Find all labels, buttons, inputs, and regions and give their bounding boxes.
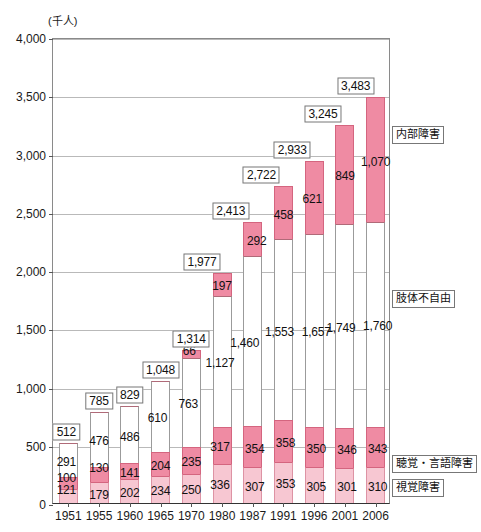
y-axis-tick-label: 1,500 [16,323,46,337]
segment-value-label: 130 [89,461,108,475]
segment-value-label: 336 [210,478,229,492]
segment-value-label: 1,760 [363,319,392,333]
disability-population-stacked-bar-chart: (千人) 05001,0001,5002,0002,5003,0003,5004… [0,0,481,532]
segment-value-label: 458 [274,208,293,222]
x-axis-label-1965: 1965 [147,509,174,523]
segment-value-label: 621 [302,192,321,206]
x-axis-tick [283,503,284,507]
legend-item-choukaku: 聴覚・言語障害 [392,455,477,473]
x-axis-label-2006: 2006 [362,509,389,523]
legend-item-shitai: 肢体不自由 [392,290,455,308]
bar-total-label: 2,722 [243,166,280,183]
bar-total-label: 829 [116,387,143,404]
segment-value-label: 486 [120,430,139,444]
x-axis-label-1991: 1991 [270,509,297,523]
segment-value-label: 849 [335,169,354,183]
x-axis-tick [161,503,162,507]
bar-total-label: 2,413 [212,202,249,219]
segment-value-label: 204 [151,459,170,473]
y-axis-tick [49,505,53,506]
legend-item-shikaku: 視覚障害 [392,479,444,497]
y-axis-tick-label: 0 [39,498,46,512]
segment-value-label: 350 [306,442,325,456]
x-axis-tick [314,503,315,507]
segment-value-label: 234 [151,484,170,498]
y-axis-tick-label: 2,000 [16,265,46,279]
segment-value-label: 307 [245,480,264,494]
x-axis-tick [345,503,346,507]
x-axis-label-1980: 1980 [209,509,236,523]
segment-value-label: 358 [276,436,295,450]
bar-total-label: 3,245 [304,105,341,122]
y-axis-unit-label: (千人) [48,12,77,28]
segment-value-label: 292 [247,234,266,248]
bar-total-label: 2,933 [274,142,311,159]
segment-value-label: 305 [306,480,325,494]
x-axis-tick [99,503,100,507]
segment-value-label: 310 [368,480,387,494]
segment-value-label: 354 [245,442,264,456]
bar-total-label: 512 [53,424,80,441]
segment-value-label: 291 [57,455,76,469]
segment-value-label: 1,553 [265,325,294,339]
segment-value-label: 250 [182,483,201,497]
segment-value-label: 1,460 [230,336,259,350]
x-axis-tick [222,503,223,507]
x-axis-tick [253,503,254,507]
segment-value-label: 763 [179,397,198,411]
segment-value-label: 476 [89,434,108,448]
bar-1991[interactable] [274,186,293,503]
x-axis-label-1987: 1987 [239,509,266,523]
x-axis-label-1996: 1996 [301,509,328,523]
y-axis-tick-label: 4,000 [16,32,46,46]
x-axis-label-1955: 1955 [86,509,113,523]
bar-total-label: 1,048 [142,361,179,378]
x-axis-tick [191,503,192,507]
segment-value-label: 1,070 [361,155,390,169]
x-axis-tick [68,503,69,507]
segment-value-label: 346 [337,443,356,457]
segment-value-label: 1,749 [326,321,355,335]
bar-1980[interactable] [213,273,232,503]
segment-value-label: 343 [368,442,387,456]
segment-value-label: 141 [120,466,139,480]
segment-value-label: 353 [276,477,295,491]
bar-1970[interactable] [182,350,201,503]
segment-value-label: 317 [210,440,229,454]
bar-total-label: 3,483 [337,78,374,95]
bar-total-label: 785 [85,392,112,409]
segment-value-label: 235 [182,455,201,469]
x-axis-label-1951: 1951 [55,509,82,523]
bar-total-label: 1,977 [183,253,220,270]
y-axis-tick-label: 1,000 [16,382,46,396]
segment-value-label: 301 [337,480,356,494]
x-axis-label-2001: 2001 [332,509,359,523]
segment-value-label: 100 [57,471,76,485]
bar-1987[interactable] [243,222,262,503]
x-axis-tick [130,503,131,507]
bar-total-label: 1,314 [173,330,210,347]
y-axis-tick-label: 500 [26,440,46,454]
segment-value-label: 179 [89,488,108,502]
segment-value-label: 1,127 [205,356,234,370]
x-axis-label-1960: 1960 [116,509,143,523]
segment-value-label: 197 [212,279,231,293]
x-axis-tick [376,503,377,507]
segment-value-label: 610 [148,411,167,425]
y-axis-tick-label: 3,000 [16,149,46,163]
y-axis-tick-label: 2,500 [16,207,46,221]
y-axis-tick-label: 3,500 [16,90,46,104]
segment-value-label: 202 [120,486,139,500]
legend-item-naibu: 内部障害 [392,126,444,144]
plot-area: 05001,0001,5002,0002,5003,0003,5004,000 … [52,38,390,504]
x-axis-label-1970: 1970 [178,509,205,523]
